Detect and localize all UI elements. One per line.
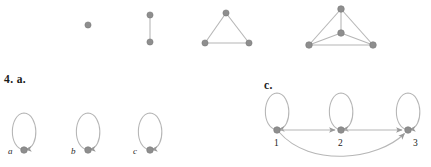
part-a-label: 4. a. [4,74,26,86]
graph-node [21,147,28,154]
graph-node [338,30,345,37]
graph-node [223,10,229,16]
self-loop-edge [12,113,35,150]
graph-node [147,39,153,45]
self-loop-edge-1 [265,93,288,130]
graph-k3 [202,10,252,46]
graph-node [246,40,252,46]
graph-node [85,22,91,28]
loop-graph-a [12,113,35,153]
node-label-a: a [8,147,13,156]
self-loop-edge [138,113,161,150]
figure-page: 4. a. a b c c. 1 2 3 [0,0,431,167]
node-label-b: b [71,147,76,156]
self-loop-edge-3 [396,93,419,130]
graph-k1 [85,22,91,28]
graph-edge [309,9,341,45]
node-label-1: 1 [274,139,279,149]
graph-node-3 [405,127,412,134]
graph-node [147,12,153,18]
graph-node [147,147,154,154]
graph-node [338,6,345,13]
node-label-2: 2 [338,139,343,149]
graph-node [85,147,92,154]
graph-edge [341,9,373,45]
part-c-label: c. [264,80,273,92]
self-loop-edge [76,113,99,150]
loop-graph-c [138,113,161,153]
node-label-3: 3 [413,139,418,149]
node-label-c: c [133,147,137,156]
graph-edge [205,13,226,43]
graph-node [306,42,313,49]
graph-node [370,42,377,49]
loop-graph-b [76,113,99,153]
graph-edge [226,13,249,43]
graph-k2 [147,12,153,45]
graph-node [202,40,208,46]
graph-k4 [306,6,377,49]
self-loop-edge-2 [329,93,352,130]
graph-node-2 [338,127,345,134]
graph-figure-canvas [0,0,431,167]
graph-node-1 [274,127,281,134]
